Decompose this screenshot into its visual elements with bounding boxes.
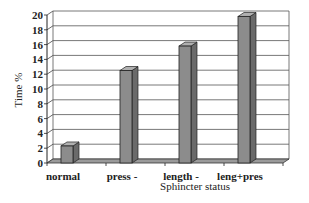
y-tick-label: 4 bbox=[38, 127, 44, 139]
x-category-label: press - bbox=[107, 170, 138, 182]
bar-leng-pres bbox=[238, 16, 250, 163]
y-axis-title: Time % bbox=[12, 73, 24, 108]
y-tick-label: 10 bbox=[32, 83, 44, 95]
y-tick-label: 12 bbox=[32, 68, 44, 80]
y-tick-label: 20 bbox=[32, 9, 44, 21]
bar-normal bbox=[61, 146, 73, 163]
y-tick-label: 14 bbox=[32, 53, 44, 65]
bar-chart: 02468101214161820normalpress -length -le… bbox=[0, 0, 309, 203]
y-tick-label: 0 bbox=[38, 157, 44, 169]
y-tick-label: 2 bbox=[38, 142, 44, 154]
x-category-label: normal bbox=[46, 170, 80, 182]
bar-press- bbox=[120, 71, 132, 164]
y-tick-label: 16 bbox=[32, 39, 44, 51]
y-tick-label: 18 bbox=[32, 24, 44, 36]
x-axis-title: Sphincter status bbox=[160, 180, 230, 192]
y-tick-label: 8 bbox=[38, 98, 44, 110]
y-tick-label: 6 bbox=[38, 113, 44, 125]
bar-length- bbox=[179, 46, 191, 163]
